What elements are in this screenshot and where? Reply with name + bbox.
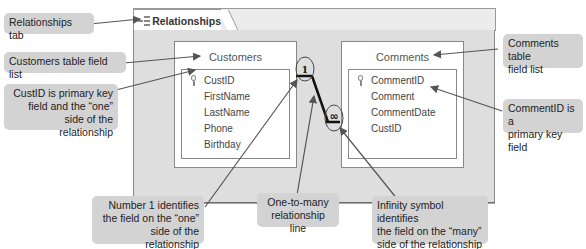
field-commentid[interactable]: CommentID bbox=[349, 73, 456, 89]
primary-key-icon bbox=[191, 75, 196, 81]
callout-customers-field-list: Customers table field list bbox=[4, 52, 126, 73]
customers-title: Customers bbox=[175, 51, 296, 65]
relationships-icon bbox=[138, 15, 148, 27]
relationships-window: Relationships Customers CustID FirstName… bbox=[133, 8, 495, 203]
field-firstname[interactable]: FirstName bbox=[182, 89, 289, 105]
field-custid-fk[interactable]: CustID bbox=[349, 121, 456, 137]
field-lastname[interactable]: LastName bbox=[182, 105, 289, 121]
callout-custid-pk: CustID is primary keyfield and the “one”… bbox=[4, 84, 118, 130]
tab-strip: Relationships bbox=[133, 8, 496, 31]
primary-key-icon bbox=[358, 75, 363, 81]
callout-infinity: Infinity symbol identifiesthe field on t… bbox=[372, 196, 488, 244]
comments-field-list[interactable]: Comments CommentID Comment CommentDate C… bbox=[341, 41, 464, 168]
field-commentdate[interactable]: CommentDate bbox=[349, 105, 456, 121]
field-comment[interactable]: Comment bbox=[349, 89, 456, 105]
customers-field-list[interactable]: Customers CustID FirstName LastName Phon… bbox=[174, 41, 297, 168]
comments-fields: CommentID Comment CommentDate CustID bbox=[348, 69, 457, 159]
callout-comments-field-list: Comments tablefield list bbox=[503, 34, 583, 68]
tab-label: Relationships bbox=[152, 15, 221, 27]
callout-commentid-pk: CommentID is aprimary key field bbox=[503, 99, 583, 133]
field-birthday[interactable]: Birthday bbox=[182, 137, 289, 153]
field-custid[interactable]: CustID bbox=[182, 73, 289, 89]
callout-relationships-tab: Relationships tab bbox=[4, 13, 94, 34]
relationships-canvas: Customers CustID FirstName LastName Phon… bbox=[133, 30, 495, 203]
callout-one-to-many: One-to-manyrelationship line bbox=[257, 193, 339, 227]
tab-relationships[interactable]: Relationships bbox=[133, 9, 221, 31]
field-phone[interactable]: Phone bbox=[182, 121, 289, 137]
customers-fields: CustID FirstName LastName Phone Birthday bbox=[181, 69, 290, 159]
comments-title: Comments bbox=[342, 51, 463, 65]
callout-number-one: Number 1 identifiesthe field on the “one… bbox=[92, 196, 204, 244]
